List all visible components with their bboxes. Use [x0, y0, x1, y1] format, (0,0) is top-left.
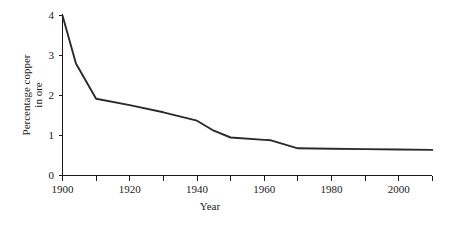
- y-tick-label-1: 1: [49, 129, 55, 141]
- y-axis-title-line2: in ore: [32, 82, 44, 107]
- x-tick-label-1900: 1900: [52, 183, 75, 195]
- x-tick-label-1920: 1920: [119, 183, 142, 195]
- chart-figure: 0 1 2 3 4 1900 1920 1940 1960: [0, 0, 460, 225]
- y-axis-ticks: [59, 16, 63, 176]
- x-axis-tick-labels: 1900 1920 1940 1960 1980 2000: [52, 183, 411, 195]
- x-axis-ticks: [63, 176, 433, 181]
- y-axis-title: Percentage copper in ore: [20, 54, 44, 135]
- x-tick-label-1960: 1960: [253, 183, 276, 195]
- data-series-line: [63, 16, 433, 150]
- y-axis-tick-labels: 0 1 2 3 4: [49, 9, 55, 181]
- y-tick-label-4: 4: [49, 9, 55, 21]
- x-axis-title: Year: [200, 200, 221, 212]
- x-tick-label-2000: 2000: [388, 183, 411, 195]
- y-tick-label-0: 0: [49, 169, 55, 181]
- y-tick-label-3: 3: [49, 49, 55, 61]
- line-chart: 0 1 2 3 4 1900 1920 1940 1960: [0, 0, 460, 225]
- x-tick-label-1980: 1980: [321, 183, 344, 195]
- x-tick-label-1940: 1940: [186, 183, 209, 195]
- y-axis-title-line1: Percentage copper: [20, 54, 32, 135]
- y-tick-label-2: 2: [49, 89, 55, 101]
